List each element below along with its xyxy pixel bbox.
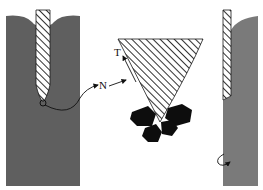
tangent-label: T [114, 46, 121, 58]
left-panel [6, 10, 98, 186]
diagram-canvas: N T [0, 0, 263, 190]
fragment-3 [142, 124, 162, 142]
normal-label: N [99, 79, 107, 91]
center-panel: N T [99, 39, 203, 142]
right-panel [218, 10, 258, 186]
drill-bit-left [36, 10, 50, 102]
normal-arrow [109, 80, 126, 86]
drill-bit-right [223, 10, 231, 100]
fragment-1 [130, 106, 156, 126]
